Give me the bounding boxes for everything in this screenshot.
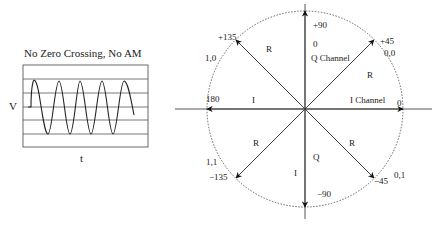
angle-label-0: 0 [397, 98, 402, 108]
angle-label-plus-90: +90 [313, 20, 328, 30]
q-channel-label: Q Channel [311, 53, 350, 63]
symbol-01: 0,1 [394, 170, 405, 180]
angle-label-180: 180 [206, 94, 220, 104]
symbol-10: 1,0 [205, 53, 217, 63]
symbol-00: 0,0 [384, 48, 396, 58]
r-label-q4: R [349, 138, 355, 148]
r-label-q1: R [367, 70, 373, 80]
angle-label-plus-135: +135 [218, 32, 237, 42]
q-zero-label: 0 [313, 39, 318, 49]
angle-label-minus-90: −90 [317, 189, 332, 199]
q-label-down: Q [313, 152, 320, 162]
r-label-q2: R [266, 44, 272, 54]
i-label-left: I [252, 95, 255, 105]
angle-label-minus-45: −45 [374, 176, 389, 186]
i-channel-label: I Channel [350, 95, 386, 105]
angle-label-minus-135: −135 [209, 172, 228, 182]
diagram-canvas: +90 +45 0,0 +135 1,0 180 0 1,1 −135 −45 … [0, 0, 445, 225]
r-label-q3: R [253, 138, 259, 148]
waveform-plot [23, 65, 148, 147]
angle-label-plus-45: +45 [380, 36, 395, 46]
symbol-11: 1,1 [206, 157, 217, 167]
i-label-down: I [294, 168, 297, 178]
